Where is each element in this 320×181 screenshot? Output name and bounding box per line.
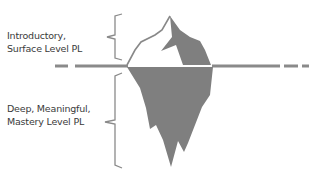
iceberg-diagram — [0, 0, 320, 181]
brace-surface — [107, 14, 122, 60]
brace-deep — [105, 73, 122, 168]
mastery-label-line1: Deep, Meaningful, — [7, 102, 90, 115]
surface-level-label: Introductory, Surface Level PL — [7, 29, 82, 55]
iceberg-tip-outline — [127, 16, 170, 65]
surface-label-line1: Introductory, — [7, 29, 82, 42]
mastery-label-line2: Mastery Level PL — [7, 115, 90, 128]
iceberg-submerged — [127, 67, 213, 167]
surface-label-line2: Surface Level PL — [7, 42, 82, 55]
mastery-level-label: Deep, Meaningful, Mastery Level PL — [7, 102, 90, 128]
iceberg-tip-shadow — [161, 16, 211, 65]
